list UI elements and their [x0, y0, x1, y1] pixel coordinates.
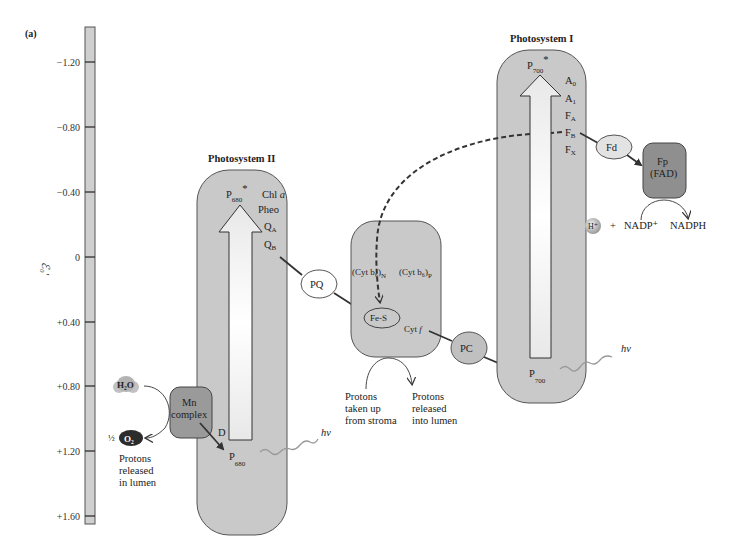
- lumen-label-1: Protons: [412, 391, 444, 402]
- proton-transfer-arrow: [366, 358, 412, 389]
- cytf-label: Cyt f: [404, 324, 423, 334]
- photosystem-ii: Photosystem II P680* Chl a Pheo QA QB D …: [197, 153, 331, 535]
- svg-text:H⁺: H⁺: [588, 222, 598, 231]
- complex-label: complex: [171, 409, 208, 420]
- photosystem-i: Photosystem I P700* A0 A1 FA FB FX P700 …: [497, 33, 631, 403]
- d-label: D: [218, 427, 226, 438]
- protons-released-label-3: in lumen: [119, 477, 157, 488]
- scale-tick-label: −1.20: [57, 57, 80, 68]
- scale-tick-label: +0.40: [57, 317, 80, 328]
- chl-a-label: Chl a: [262, 189, 285, 200]
- fd-node: Fd: [596, 135, 632, 159]
- lumen-label-2: released: [412, 403, 447, 414]
- psi-hv-label: hv: [621, 343, 631, 354]
- svg-text:PC: PC: [460, 343, 473, 354]
- psii-hv-label: hv: [321, 427, 331, 438]
- stroma-label-3: from stroma: [345, 415, 397, 426]
- svg-text:H₂O: H₂O: [117, 380, 134, 390]
- nadp-label: NADP⁺: [624, 220, 658, 231]
- plus-sign: +: [610, 220, 616, 231]
- psi-title: Photosystem I: [510, 33, 573, 44]
- scale-tick-label: +0.80: [57, 381, 80, 392]
- protons-released-label-2: released: [119, 465, 154, 476]
- stroma-label-2: taken up: [345, 403, 381, 414]
- psii-title: Photosystem II: [208, 153, 275, 164]
- axis-label: ℰ₀': [40, 262, 52, 276]
- lumen-label-3: into lumen: [412, 415, 458, 426]
- stroma-label-1: Protons: [345, 391, 377, 402]
- protons-released-label-1: Protons: [119, 453, 151, 464]
- half-label: ½: [108, 433, 115, 443]
- mn-label: Mn: [182, 397, 197, 408]
- o2-molecule: O₂: [119, 430, 143, 446]
- nadp-reduction-arrow: [641, 200, 688, 220]
- scale-tick-label: 0: [75, 252, 80, 263]
- pq-node: PQ: [301, 270, 337, 298]
- cytochrome-b6f-complex: (Cyt b₆)N (Cyt b₆)P Fe-S Cyt f Protons t…: [345, 221, 458, 426]
- svg-text:Fp: Fp: [657, 156, 668, 167]
- nadph-label: NADPH: [670, 220, 707, 231]
- svg-text:PQ: PQ: [310, 279, 324, 290]
- energy-scale: −1.20−0.80−0.400+0.40+0.80+1.20+1.60 ℰ₀': [40, 27, 95, 524]
- h2o-molecule: H₂O: [113, 376, 139, 393]
- fd-to-fp-arrow: [627, 155, 641, 165]
- pheo-label: Pheo: [258, 204, 279, 215]
- panel-label: (a): [25, 28, 37, 40]
- scale-tick-label: −0.40: [57, 187, 80, 198]
- svg-text:O₂: O₂: [124, 434, 134, 444]
- z-scheme-diagram: (a) −1.20−0.80−0.400+0.40+0.80+1.20+1.60…: [0, 0, 734, 551]
- scale-bar: [85, 27, 95, 524]
- pc-node: PC: [451, 332, 487, 364]
- scale-tick-label: −0.80: [57, 122, 80, 133]
- water-to-o2-arrow: [144, 386, 169, 438]
- cyt-box: [351, 221, 441, 357]
- svg-text:(FAD): (FAD): [650, 168, 678, 180]
- fes-label: Fe-S: [370, 313, 387, 323]
- h-plus-ion: H⁺: [585, 218, 601, 234]
- scale-tick-label: +1.20: [57, 446, 80, 457]
- scale-tick-label: +1.60: [57, 511, 80, 522]
- fp-fad-box: Fp (FAD): [643, 143, 686, 198]
- svg-text:Fd: Fd: [606, 142, 618, 153]
